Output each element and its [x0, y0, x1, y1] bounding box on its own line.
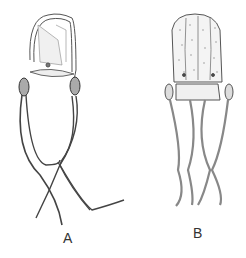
specimen-label-a: A [63, 230, 72, 246]
jellyfish-illustration [0, 0, 246, 258]
specimen-b-drawing [165, 14, 233, 206]
specimen-a-drawing [19, 14, 124, 225]
specimen-label-b: B [193, 225, 202, 241]
